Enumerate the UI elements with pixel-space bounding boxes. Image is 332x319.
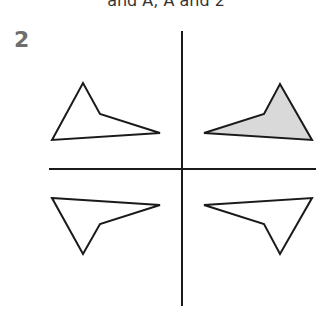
shape-top-right-shaded (204, 84, 312, 140)
shape-bottom-left (52, 198, 160, 254)
shape-top-left (52, 83, 160, 140)
reflection-diagram (0, 0, 332, 319)
shape-bottom-right (204, 198, 312, 254)
